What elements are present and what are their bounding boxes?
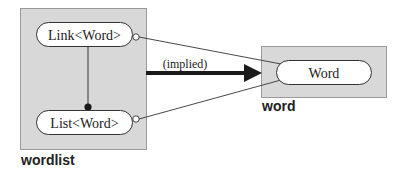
node-word-label: Word: [309, 66, 340, 81]
node-list-word-label: List<Word>: [50, 116, 118, 131]
link-open-circle-icon: [133, 34, 139, 40]
filled-dot-icon: [84, 103, 91, 110]
link-to-word-line: [139, 37, 281, 64]
diagram-canvas: (implied) Link<Word> List<Word> Word wor…: [0, 0, 407, 173]
node-link-word-label: Link<Word>: [48, 28, 121, 43]
list-to-word-line: [139, 80, 281, 119]
implied-arrow-label: (implied): [163, 57, 208, 71]
wordlist-group-label: wordlist: [20, 152, 75, 168]
word-group-label: word: [261, 98, 295, 114]
implied-arrow-head-icon: [244, 64, 262, 82]
list-open-circle-icon: [133, 116, 139, 122]
